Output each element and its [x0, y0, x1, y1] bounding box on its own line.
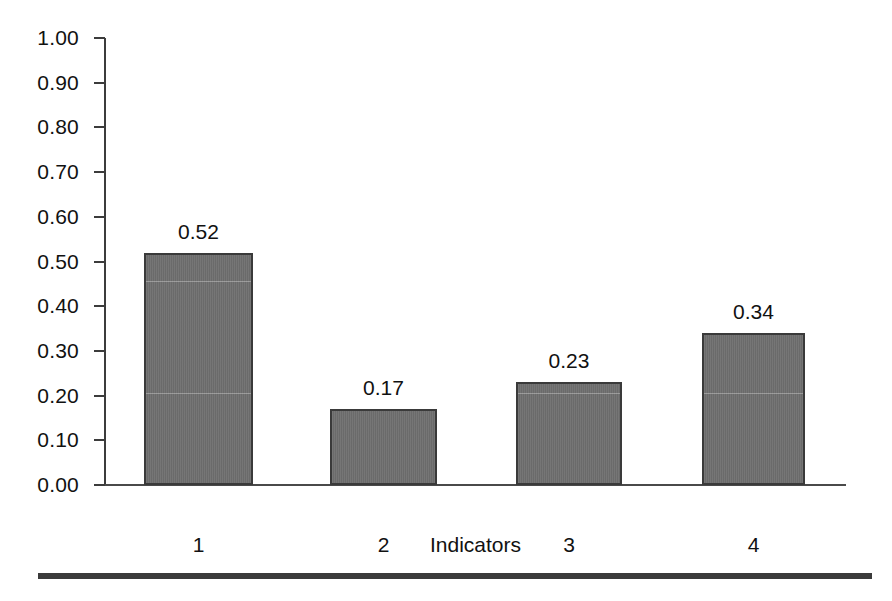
bar-value-label: 0.17: [330, 377, 437, 398]
y-axis-tick-label: 0.00: [0, 474, 79, 495]
bar: [144, 253, 253, 485]
bar: [702, 333, 805, 485]
bar-scanline-artifact: [146, 281, 251, 282]
y-axis-tick-label: 0.10: [0, 429, 79, 450]
y-axis-tick-mark: [94, 171, 105, 173]
y-axis-tick-mark: [94, 484, 105, 486]
y-axis-tick-label: 0.60: [0, 206, 79, 227]
y-axis-tick-mark: [94, 261, 105, 263]
y-axis-tick-mark: [94, 439, 105, 441]
plot-area: 0.000.100.200.300.400.500.600.700.800.90…: [105, 38, 846, 485]
y-axis-tick-mark: [94, 216, 105, 218]
bar-chart-figure: 0.000.100.200.300.400.500.600.700.800.90…: [0, 0, 892, 601]
y-axis-tick-label: 0.30: [0, 340, 79, 361]
y-axis-tick-mark: [94, 37, 105, 39]
y-axis-tick-mark: [94, 395, 105, 397]
bar-value-label: 0.34: [702, 301, 805, 322]
y-axis-tick-label: 0.90: [0, 72, 79, 93]
y-axis-tick-label: 0.50: [0, 251, 79, 272]
y-axis-tick-mark: [94, 350, 105, 352]
y-axis-tick-label: 0.40: [0, 295, 79, 316]
x-axis-title: Indicators: [105, 534, 846, 555]
bottom-divider-rule: [38, 573, 872, 579]
y-axis-tick-mark: [94, 126, 105, 128]
bar: [330, 409, 437, 485]
y-axis-tick-label: 0.80: [0, 116, 79, 137]
y-axis-tick-mark: [94, 82, 105, 84]
bar: [516, 382, 622, 485]
bar-value-label: 0.52: [144, 221, 253, 242]
bar-scanline-artifact: [146, 393, 251, 394]
y-axis-tick-label: 0.70: [0, 161, 79, 182]
bar-value-label: 0.23: [516, 350, 622, 371]
y-axis-tick-label: 1.00: [0, 27, 79, 48]
bar-scanline-artifact: [704, 393, 803, 394]
y-axis-tick-label: 0.20: [0, 385, 79, 406]
bar-scanline-artifact: [518, 393, 620, 394]
y-axis-tick-mark: [94, 305, 105, 307]
